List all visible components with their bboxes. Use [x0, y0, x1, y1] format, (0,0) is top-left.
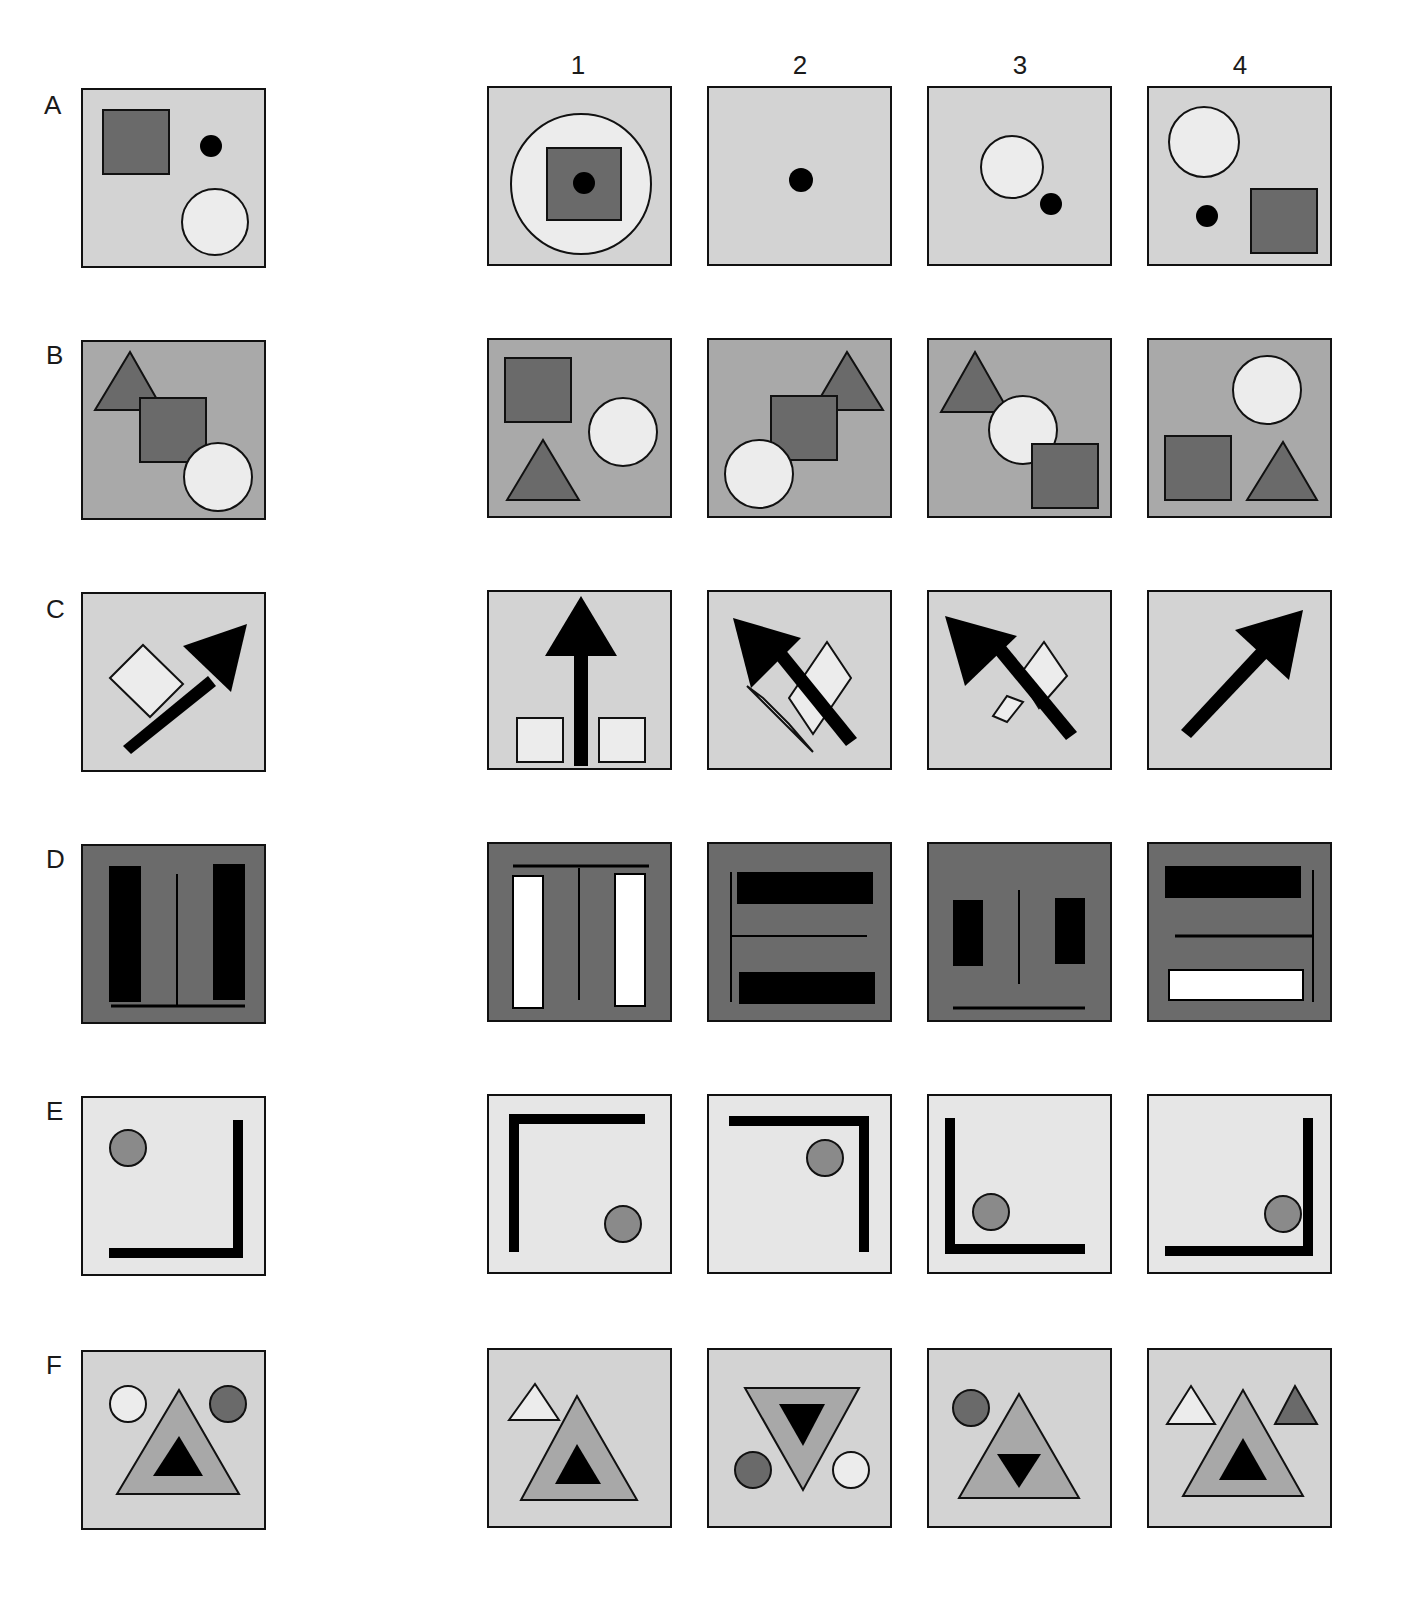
circle-shape [1233, 356, 1301, 424]
square-shape [615, 874, 645, 1006]
circle-shape [807, 1140, 843, 1176]
square-shape [517, 718, 563, 762]
option-panel-d1[interactable] [487, 842, 672, 1022]
square-shape [953, 900, 983, 966]
panel-graphic [83, 90, 264, 266]
square-shape [1303, 1118, 1313, 1256]
option-panel-e3[interactable] [927, 1094, 1112, 1274]
sample-panel-d [81, 844, 266, 1024]
panel-graphic [929, 844, 1110, 1020]
circle-shape [789, 168, 813, 192]
panel-graphic [83, 1352, 264, 1528]
square-shape [737, 872, 873, 904]
polygon-shape [183, 624, 247, 692]
option-panel-f1[interactable] [487, 1348, 672, 1528]
square-shape [599, 718, 645, 762]
option-panel-f2[interactable] [707, 1348, 892, 1528]
option-panel-a4[interactable] [1147, 86, 1332, 266]
option-panel-f3[interactable] [927, 1348, 1112, 1528]
polygon-shape [1275, 1386, 1317, 1424]
square-shape [1165, 436, 1231, 500]
sample-panel-f [81, 1350, 266, 1530]
square-shape [213, 864, 245, 1000]
circle-shape [210, 1386, 246, 1422]
circle-shape [110, 1130, 146, 1166]
option-panel-b4[interactable] [1147, 338, 1332, 518]
option-panel-a1[interactable] [487, 86, 672, 266]
square-shape [859, 1116, 869, 1252]
option-panel-a2[interactable] [707, 86, 892, 266]
square-shape [1169, 970, 1303, 1000]
panel-graphic [489, 1350, 670, 1526]
circle-shape [589, 398, 657, 466]
square-shape [509, 1114, 519, 1252]
panel-graphic [709, 592, 890, 768]
circle-shape [833, 1452, 869, 1488]
panel-graphic [83, 846, 264, 1022]
circle-shape [605, 1206, 641, 1242]
panel-graphic [709, 844, 890, 1020]
square-shape [574, 654, 588, 766]
polygon-shape [1167, 1386, 1215, 1424]
circle-shape [1040, 193, 1062, 215]
circle-shape [725, 440, 793, 508]
panel-graphic [83, 1098, 264, 1274]
column-label-3: 3 [1000, 52, 1040, 78]
row-label-d: D [46, 846, 65, 872]
option-panel-d3[interactable] [927, 842, 1112, 1022]
option-panel-e1[interactable] [487, 1094, 672, 1274]
panel-graphic [489, 844, 670, 1020]
option-panel-b1[interactable] [487, 338, 672, 518]
panel-graphic [1149, 88, 1330, 264]
option-panel-a3[interactable] [927, 86, 1112, 266]
panel-graphic [1149, 1096, 1330, 1272]
option-panel-b3[interactable] [927, 338, 1112, 518]
row-label-a: A [44, 92, 61, 118]
square-shape [103, 110, 169, 174]
circle-shape [735, 1452, 771, 1488]
square-shape [945, 1244, 1085, 1254]
option-panel-c4[interactable] [1147, 590, 1332, 770]
option-panel-e2[interactable] [707, 1094, 892, 1274]
option-panel-d4[interactable] [1147, 842, 1332, 1022]
polygon-shape [1247, 442, 1317, 500]
option-panel-f4[interactable] [1147, 1348, 1332, 1528]
square-shape [1032, 444, 1098, 508]
option-panel-e4[interactable] [1147, 1094, 1332, 1274]
option-panel-b2[interactable] [707, 338, 892, 518]
circle-shape [182, 189, 248, 255]
option-panel-c1[interactable] [487, 590, 672, 770]
square-shape [109, 866, 141, 1002]
panel-graphic [83, 594, 264, 770]
sample-panel-a [81, 88, 266, 268]
panel-graphic [489, 592, 670, 768]
polygon-shape [941, 352, 1009, 412]
square-shape [1055, 898, 1085, 964]
circle-shape [110, 1386, 146, 1422]
panel-graphic [83, 342, 264, 518]
square-shape [729, 1116, 869, 1126]
panel-graphic [1149, 592, 1330, 768]
row-label-b: B [46, 342, 63, 368]
column-label-1: 1 [558, 52, 598, 78]
square-shape [1165, 866, 1301, 898]
option-panel-d2[interactable] [707, 842, 892, 1022]
circle-shape [1196, 205, 1218, 227]
panel-graphic [1149, 340, 1330, 516]
polygon-shape [507, 440, 579, 500]
panel-graphic [929, 340, 1110, 516]
circle-shape [184, 443, 252, 511]
panel-graphic [489, 88, 670, 264]
option-panel-c2[interactable] [707, 590, 892, 770]
panel-graphic [929, 592, 1110, 768]
circle-shape [200, 135, 222, 157]
option-panel-c3[interactable] [927, 590, 1112, 770]
column-label-4: 4 [1220, 52, 1260, 78]
circle-shape [1265, 1196, 1301, 1232]
square-shape [233, 1120, 243, 1258]
panel-graphic [1149, 1350, 1330, 1526]
panel-graphic [489, 1096, 670, 1272]
panel-graphic [929, 1350, 1110, 1526]
sample-panel-c [81, 592, 266, 772]
polygon-shape [1181, 644, 1271, 738]
